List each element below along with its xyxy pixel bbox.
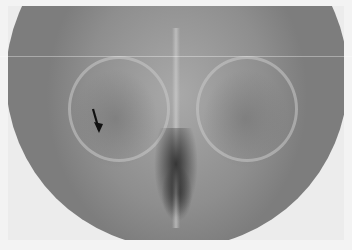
film-background — [8, 6, 344, 240]
image-frame — [0, 0, 352, 250]
xray-image — [8, 6, 344, 240]
right-orbit — [196, 56, 298, 162]
scan-line — [0, 56, 352, 57]
nasal-cavity — [154, 128, 198, 218]
arrow-down-icon — [90, 108, 104, 134]
